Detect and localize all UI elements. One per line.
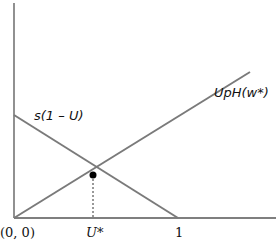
decreasing-curve-label: s(1 – U) xyxy=(34,108,83,123)
increasing-curve-label: UpH(w*) xyxy=(214,85,269,100)
origin-label: (0, 0) xyxy=(0,225,35,240)
equilibrium-point xyxy=(90,172,97,179)
equilibrium-tick-label: U* xyxy=(86,225,104,240)
unit-tick-label: 1 xyxy=(175,225,183,240)
steady-state-diagram: s(1 – U) UpH(w*) (0, 0) U* 1 xyxy=(0,0,276,241)
